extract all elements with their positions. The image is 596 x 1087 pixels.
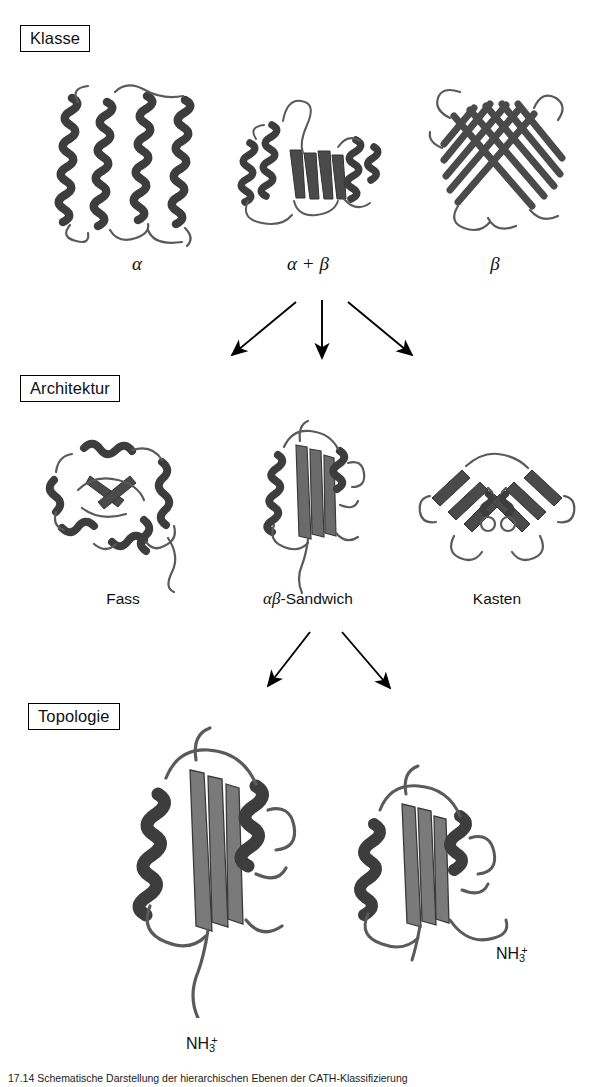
structure-label-alpha-plus-beta: α + β [258,253,358,275]
structure-beta-barrel [422,78,572,248]
structure-label-beta: β [465,253,525,275]
sandwich-greek-part: αβ [263,589,280,608]
protein-classification-figure: Klasse Architektur Topologie α [0,0,596,1087]
structure-label-alpha: α [97,253,177,275]
arrows-architecture-to-topology [268,632,390,688]
arrows-class-to-architecture [232,300,412,358]
structure-topology-right [330,762,510,992]
structure-label-alpha-beta-sandwich: αβ-Sandwich [238,589,378,609]
level-box-topologie: Topologie [28,703,120,730]
structure-alpha-beta-sandwich [248,415,368,600]
figure-caption: 17.14 Schematische Darstellung der hiera… [8,1072,592,1087]
sandwich-text-part: -Sandwich [281,590,353,607]
structure-fass-barrel [32,420,247,595]
level-box-klasse: Klasse [20,25,90,52]
terminus-label-right-nh3: NH3+ [496,944,528,964]
terminus-label-left-nh3: NH3+ [186,1034,218,1054]
structure-label-kasten: Kasten [447,590,547,608]
level-label-architektur: Architektur [30,379,110,397]
level-label-topologie: Topologie [38,707,110,725]
level-box-architektur: Architektur [20,375,120,402]
structure-alpha-helical-bundle [52,80,222,250]
structure-kasten-box [410,440,585,575]
level-label-klasse: Klasse [30,29,80,47]
structure-label-fass: Fass [78,590,168,608]
structure-topology-left [108,718,318,1018]
structure-alpha-beta [228,95,388,245]
